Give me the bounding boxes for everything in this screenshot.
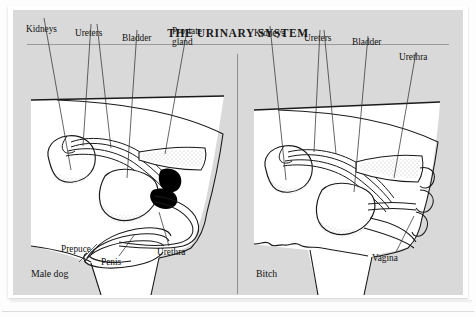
leader-kidneys — [270, 26, 286, 180]
plate-shadow — [10, 300, 472, 303]
leader-vagina — [396, 216, 414, 252]
leader-prepuce — [79, 244, 97, 262]
panel-divider — [237, 54, 238, 294]
leader-prostate — [165, 30, 187, 154]
caption-male-dog: Male dog — [31, 268, 68, 279]
male-leader-lines — [19, 20, 233, 295]
leader-kidneys — [44, 18, 71, 170]
leader-ureters-b — [97, 24, 111, 148]
leader-ureters-a — [314, 30, 320, 152]
male-dog-diagram: Kidneys Ureters Bladder Prostate gland P… — [19, 50, 233, 295]
figure-panel: THE URINARY SYSTEM — [13, 10, 463, 295]
leader-penis — [119, 234, 135, 256]
bitch-leader-lines — [244, 20, 458, 295]
leader-urethra — [394, 52, 416, 178]
bitch-diagram: Kidneys Ureters Bladder Urethra Vagina — [244, 50, 458, 295]
caption-bitch: Bitch — [256, 268, 277, 279]
leader-ureters-a — [83, 24, 91, 146]
leader-bladder — [127, 30, 137, 178]
leader-urethra — [159, 212, 169, 246]
leader-ureters-b — [324, 30, 336, 154]
urinary-system-figure: THE URINARY SYSTEM — [0, 0, 476, 317]
leader-bladder — [354, 36, 368, 192]
page-rule — [2, 311, 474, 312]
